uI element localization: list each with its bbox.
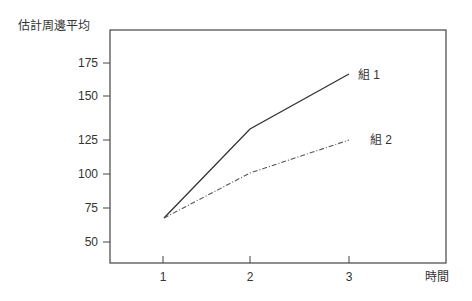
x-tick-label: 2: [247, 270, 254, 284]
x-tick-label: 3: [346, 270, 353, 284]
y-tick-label: 175: [78, 56, 98, 70]
x-axis-label: 時間: [425, 270, 449, 284]
y-tick-label: 75: [85, 201, 99, 215]
line-chart: 估計周邊平均 175 150 125 100 75 50 1 2 3 時間 組 …: [0, 0, 472, 301]
plot-frame: [110, 30, 446, 263]
series-label-group-2: 組 2: [370, 133, 392, 147]
y-axis-label: 估計周邊平均: [18, 18, 90, 33]
series-line-group-2: [164, 140, 349, 218]
y-tick-label: 100: [78, 167, 98, 181]
x-tick-label: 1: [160, 270, 167, 284]
y-axis: 175 150 125 100 75 50: [78, 56, 110, 249]
y-tick-label: 125: [78, 133, 98, 147]
y-tick-label: 50: [85, 235, 99, 249]
series-line-group-1: [164, 74, 349, 218]
series-label-group-1: 組 1: [358, 68, 380, 82]
x-axis: 1 2 3 時間: [160, 256, 449, 284]
y-tick-label: 150: [78, 89, 98, 103]
